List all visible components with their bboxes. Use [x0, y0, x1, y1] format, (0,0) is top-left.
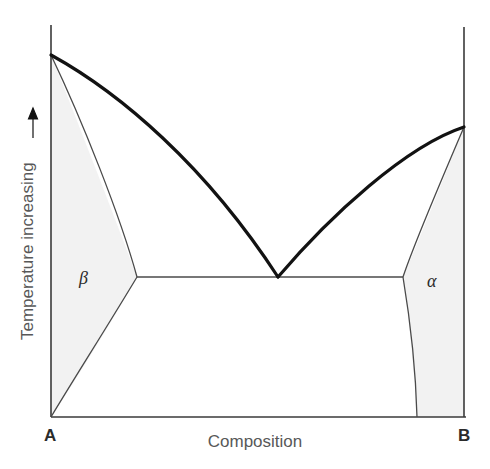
shaded-regions: [51, 55, 464, 417]
component-b-label: B: [458, 426, 470, 445]
component-a-label: A: [44, 426, 56, 445]
eutectic-phase-diagram-figure: β α A B Composition Temperature increasi…: [0, 0, 490, 469]
x-axis-title: Composition: [208, 432, 303, 451]
alpha-phase-label: α: [427, 271, 437, 291]
beta-phase-label: β: [78, 268, 88, 288]
phase-diagram-canvas: β α A B Composition Temperature increasi…: [0, 0, 490, 469]
temperature-up-arrow-icon: [29, 108, 38, 138]
y-axis-title-group: Temperature increasing: [18, 108, 38, 340]
y-axis-title: Temperature increasing: [18, 162, 37, 340]
